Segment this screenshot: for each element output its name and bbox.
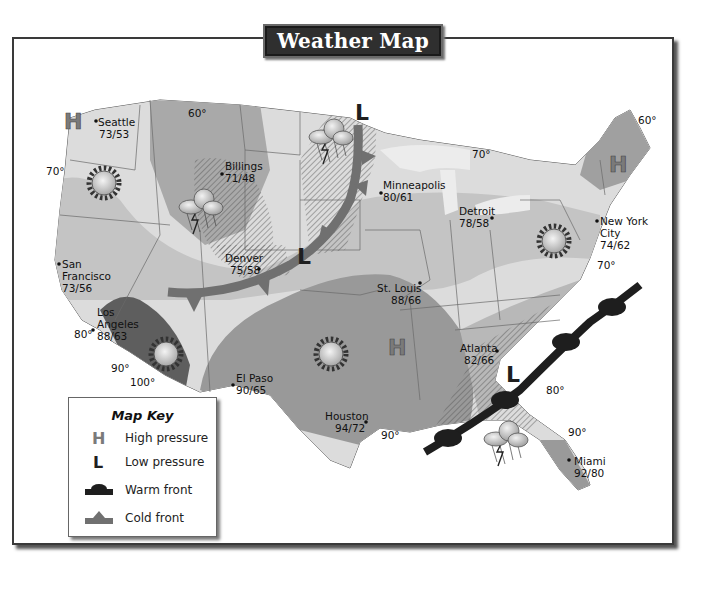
map-key-heading: Map Key [69, 408, 216, 423]
isotherm-label: 90° [381, 429, 400, 441]
high-pressure-icon: H [609, 152, 627, 177]
isotherm-label: 80° [74, 328, 93, 340]
city-label-miami: Miami92/80 [574, 455, 606, 479]
key-row-cold-front: Cold front [83, 510, 184, 526]
svg-text:L: L [93, 454, 103, 470]
map-key: Map Key H High pressure L Low pressure W… [68, 397, 217, 537]
city-label-seattle: Seattle73/53 [98, 116, 135, 140]
city-label-minneapolis: Minneapolis80/61 [383, 179, 446, 203]
svg-text:L: L [355, 100, 369, 125]
high-pressure-icon: H [83, 430, 115, 446]
city-label-detroit: Detroit78/58 [459, 205, 495, 229]
city-label-billings: Billings71/48 [225, 160, 263, 184]
low-pressure-icon: L [355, 100, 369, 125]
city-label-st-louis: St. Louis88/66 [377, 282, 422, 306]
low-pressure-icon: L [297, 244, 311, 269]
city-label-san-francisco: SanFrancisco73/56 [62, 258, 111, 294]
high-pressure-icon: H [388, 335, 406, 360]
svg-text:L: L [506, 362, 520, 387]
isotherm-label: 70° [472, 148, 491, 160]
page-title: Weather Map [277, 29, 429, 53]
city-label-denver: Denver75/58 [225, 252, 263, 276]
city-label-houston: Houston94/72 [325, 410, 369, 434]
isotherm-label: 70° [597, 259, 616, 271]
low-pressure-icon: L [83, 454, 115, 470]
key-row-high-pressure: H High pressure [83, 430, 208, 446]
city-label-new-york-city: New YorkCity74/62 [600, 215, 648, 251]
warm-front-icon [83, 482, 115, 498]
city-label-el-paso: El Paso90/65 [236, 372, 273, 396]
city-label-los-angeles: LosAngeles88/63 [97, 306, 139, 342]
isotherm-label: 60° [188, 107, 207, 119]
svg-text:H: H [609, 152, 627, 177]
low-pressure-icon: L [506, 362, 520, 387]
title-banner: Weather Map [263, 24, 443, 58]
city-label-atlanta: Atlanta82/66 [460, 342, 498, 366]
isotherm-label: 90° [568, 426, 587, 438]
isotherm-label: 70° [46, 165, 65, 177]
isotherm-label: 90° [111, 362, 130, 374]
cold-front-icon [83, 510, 115, 526]
svg-text:H: H [388, 335, 406, 360]
svg-text:L: L [297, 244, 311, 269]
svg-text:H: H [92, 430, 105, 446]
high-pressure-icon: H [64, 109, 82, 134]
isotherm-label: 80° [546, 384, 565, 396]
isotherm-label: 60° [638, 114, 657, 126]
key-row-warm-front: Warm front [83, 482, 192, 498]
key-row-low-pressure: L Low pressure [83, 454, 204, 470]
isotherm-label: 100° [130, 376, 155, 388]
svg-text:H: H [64, 109, 82, 134]
